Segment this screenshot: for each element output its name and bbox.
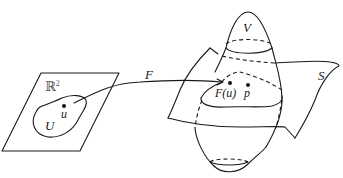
region-u-outline (33, 96, 86, 138)
patch-front-bottom (201, 96, 282, 107)
bulge-top-front-ring (226, 48, 272, 53)
point-fu-dot (228, 81, 232, 85)
point-u-label: u (61, 107, 67, 121)
surface-s-hidden-front (222, 56, 275, 63)
surface-s-top-left (210, 48, 218, 54)
plane-label: ℝ2 (45, 79, 60, 94)
neighborhood-v: V F(u) p (195, 12, 282, 172)
surface-parametrization-diagram: ℝ2 U u F S V (0, 0, 343, 178)
bulge-top-hidden-ring (226, 40, 272, 45)
bulge-bottom-front-ring (210, 162, 248, 165)
bulge-left-side-upper (215, 48, 226, 72)
map-f-label: F (144, 67, 154, 82)
domain-plane: ℝ2 U u (2, 73, 119, 151)
region-u-label: U (45, 118, 56, 133)
point-p-label: p (243, 86, 250, 100)
surface-s-left-edge (168, 48, 210, 118)
surface-s-label: S (318, 68, 325, 83)
point-fu-label: F(u) (214, 86, 236, 100)
map-arrow-curve (74, 81, 222, 104)
surface-s: S (168, 48, 339, 138)
bulge-bottom-hidden-ring (210, 159, 248, 162)
neighborhood-v-label: V (243, 20, 253, 35)
bulge-left-side-lower (195, 128, 214, 166)
